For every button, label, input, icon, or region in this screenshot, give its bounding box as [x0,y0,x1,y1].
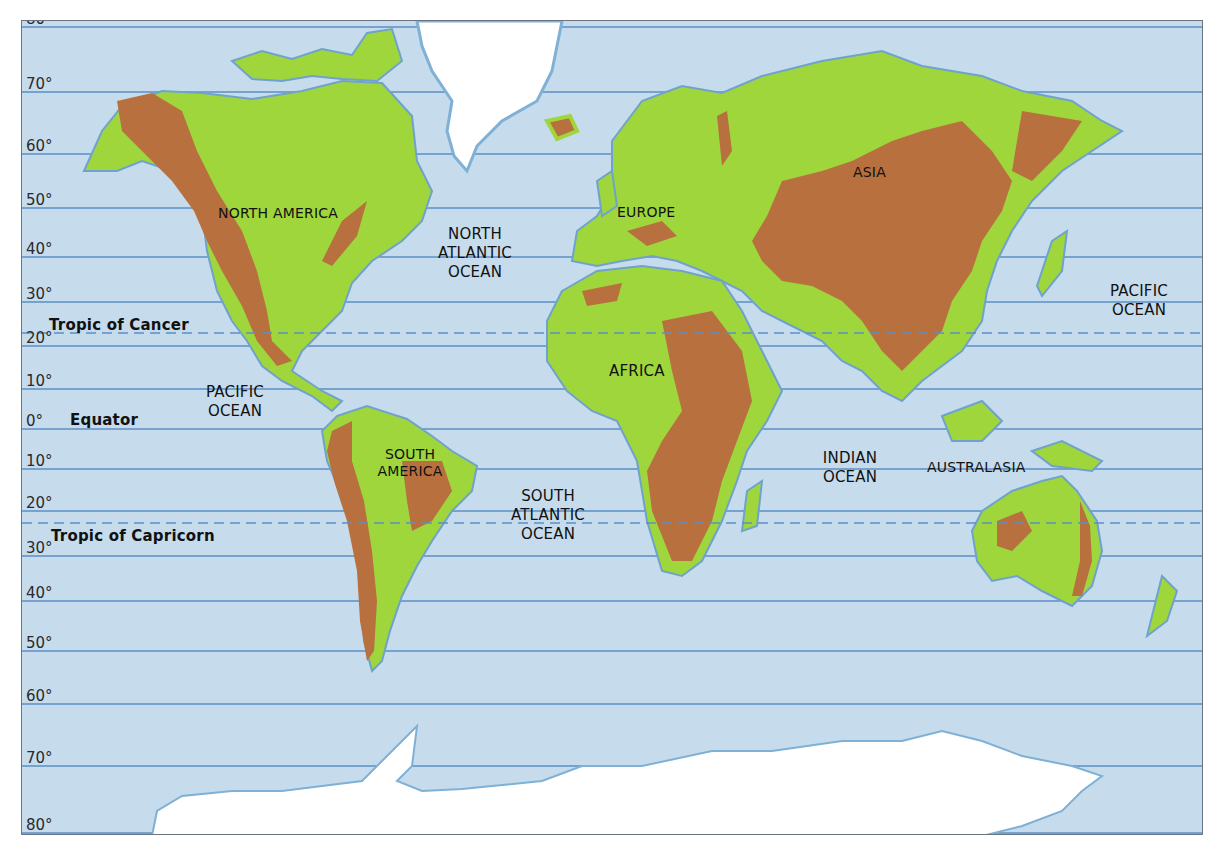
latitude-label: 20° [26,496,53,511]
ocean-label-line: SOUTH [493,487,603,506]
latitude-label: 80° [26,818,53,833]
latitude-label: 80° [26,20,53,27]
latitude-label: 40° [26,586,53,601]
ocean-label-line: OCEAN [190,402,280,421]
latitude-label: 50° [26,193,53,208]
latitude-label: 30° [26,541,53,556]
label-south-america-line2: AMERICA [366,462,454,481]
label-south-america: SOUTH AMERICA [366,445,454,481]
latitude-label: 60° [26,689,53,704]
ocean-label-line: PACIFIC [1094,282,1184,301]
world-map: 80°70°60°50°40°30°20°10°0°10°20°30°40°50… [21,20,1203,835]
label-north-america: NORTH AMERICA [218,204,338,223]
landmass-arctic-islands [232,29,402,81]
tropic-of-capricorn-label: Tropic of Capricorn [51,527,215,546]
ocean-label-line: NORTH [420,225,530,244]
latitude-label: 70° [26,751,53,766]
label-pacific-ocean-west: PACIFIC OCEAN [190,383,280,421]
latitude-label: 40° [26,242,53,257]
ocean-label-line: ATLANTIC [493,506,603,525]
ocean-label-line: INDIAN [805,449,895,468]
landmasses [84,21,1177,835]
label-pacific-ocean-east: PACIFIC OCEAN [1094,282,1184,320]
latitude-label: 10° [26,374,53,389]
ocean-label-line: PACIFIC [190,383,280,402]
label-north-atlantic-ocean: NORTH ATLANTIC OCEAN [420,225,530,282]
ocean-label-line: OCEAN [805,468,895,487]
ocean-label-line: OCEAN [420,263,530,282]
label-australasia: AUSTRALASIA [927,458,1026,477]
label-asia: ASIA [853,163,886,182]
latitude-label: 30° [26,287,53,302]
latitude-label: 50° [26,636,53,651]
equator-label: Equator [70,411,138,430]
landmass-new-zealand [1147,576,1177,636]
ocean-label-line: OCEAN [1094,301,1184,320]
latitude-label: 10° [26,454,53,469]
landmass-iceland [547,116,577,139]
latitude-label: 70° [26,77,53,92]
latitude-label: 0° [26,414,43,429]
landmass-japan [1037,231,1067,296]
label-africa: AFRICA [609,362,665,381]
label-europe: EUROPE [617,203,675,222]
landmass-greenland [417,21,562,171]
landmass-new-guinea [1032,441,1102,471]
landmass-indonesia [942,401,1002,441]
label-south-atlantic-ocean: SOUTH ATLANTIC OCEAN [493,487,603,544]
tropic-of-cancer-label: Tropic of Cancer [49,316,189,335]
map-canvas [22,21,1203,835]
latitude-label: 60° [26,139,53,154]
landmass-antarctica [152,726,1102,835]
label-indian-ocean: INDIAN OCEAN [805,449,895,487]
ocean-label-line: ATLANTIC [420,244,530,263]
ocean-label-line: OCEAN [493,525,603,544]
